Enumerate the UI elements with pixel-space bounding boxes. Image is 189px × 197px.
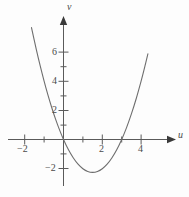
y-tick-label-4: 4 xyxy=(52,76,57,86)
x-tick-label-2: 2 xyxy=(99,144,104,154)
parabola-figure: v u −2 2 4 6 4 2 −2 xyxy=(0,0,189,197)
y-tick-label-neg2: −2 xyxy=(45,163,56,173)
parabola-curve xyxy=(31,28,147,173)
x-tick-label-4: 4 xyxy=(138,144,143,154)
plot-canvas xyxy=(0,0,189,197)
x-axis-label: u xyxy=(178,130,183,140)
y-tick-label-6: 6 xyxy=(52,47,57,57)
y-axis-label: v xyxy=(67,2,71,12)
x-tick-label-neg2: −2 xyxy=(17,144,28,154)
x-axis-arrow-icon xyxy=(167,136,176,143)
y-axis-arrow-icon xyxy=(60,16,67,25)
y-tick-label-2: 2 xyxy=(52,105,57,115)
